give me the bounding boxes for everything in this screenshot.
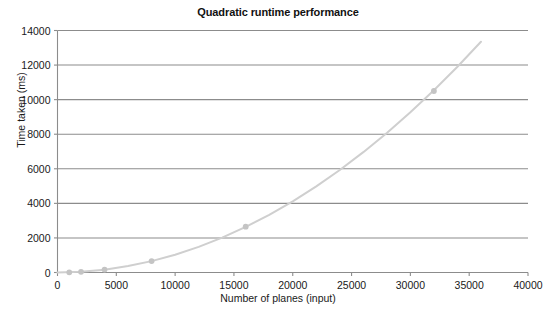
data-point [243,224,249,230]
plot-area [0,0,556,314]
x-tick-label-25000: 25000 [337,279,366,291]
series-markers [66,88,436,275]
chart-container: Quadratic runtime performance Time taken… [0,0,556,314]
x-tick-label-40000: 40000 [513,279,542,291]
y-tick-label-2000: 2000 [0,232,51,244]
data-point [149,258,155,264]
data-point [66,269,72,275]
y-tick-label-12000: 12000 [0,59,51,71]
y-tick-label-14000: 14000 [0,25,51,37]
x-tick-label-35000: 35000 [455,279,484,291]
data-point [102,267,108,273]
x-tick-label-10000: 10000 [161,279,190,291]
y-tick-label-10000: 10000 [0,94,51,106]
y-tick-label-4000: 4000 [0,197,51,209]
y-tick-label-8000: 8000 [0,128,51,140]
x-tick-label-15000: 15000 [219,279,248,291]
x-tick-label-0: 0 [55,279,61,291]
x-tick-label-30000: 30000 [396,279,425,291]
data-point [431,88,437,94]
data-point [78,269,84,275]
y-tick-label-0: 0 [0,267,51,279]
y-tick-label-6000: 6000 [0,163,51,175]
gridlines [58,31,529,238]
x-tick-label-20000: 20000 [278,279,307,291]
x-tick-label-5000: 5000 [105,279,128,291]
